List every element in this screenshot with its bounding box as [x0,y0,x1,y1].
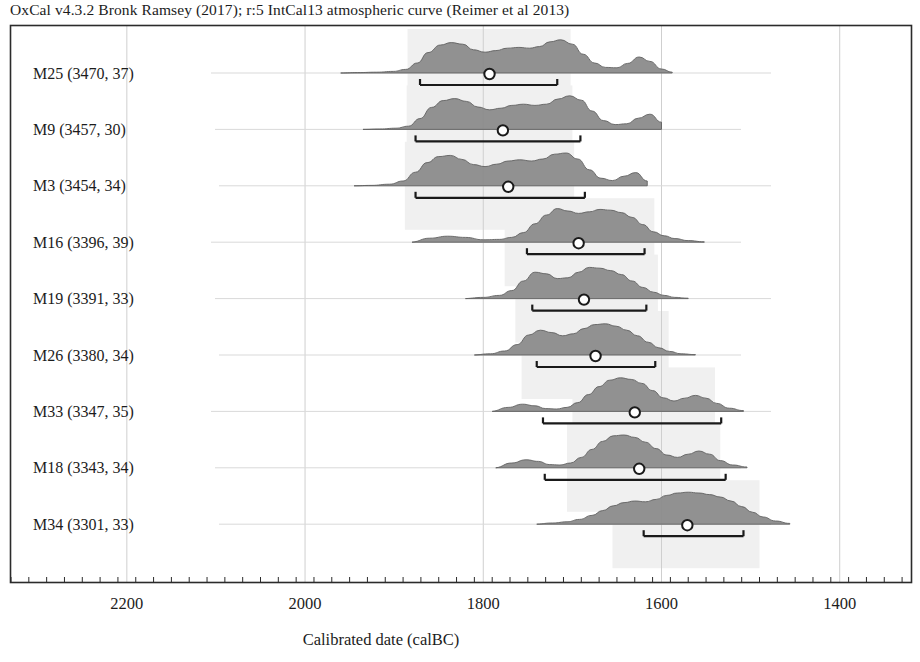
axis-tick-label: 1800 [467,594,500,613]
calibration-plot: M25 (3470, 37)M9 (3457, 30)M3 (3454, 34)… [0,0,920,662]
median-marker [590,351,600,361]
median-marker [498,125,508,135]
sample-label: M3 (3454, 34) [33,177,126,195]
median-marker [573,238,583,248]
sample-label: M19 (3391, 33) [33,290,134,308]
median-marker [630,407,640,417]
median-marker [484,69,494,79]
sample-label: M34 (3301, 33) [33,516,134,534]
axis-title: Calibrated date (calBC) [303,630,460,649]
axis-tick-label: 1400 [823,594,856,613]
axis-tick-label-group: 22002000180016001400 [110,594,856,613]
axis-tick-label: 1600 [645,594,678,613]
sample-label: M25 (3470, 37) [33,65,134,83]
median-marker [682,520,692,530]
median-marker [579,294,589,304]
sample-label: M16 (3396, 39) [33,234,134,252]
median-marker [634,464,644,474]
axis-tick-label: 2000 [289,594,322,613]
sample-label-group: M25 (3470, 37)M9 (3457, 30)M3 (3454, 34)… [33,65,134,534]
median-marker [503,182,513,192]
sample-label: M18 (3343, 34) [33,459,134,477]
sample-label: M33 (3347, 35) [33,403,134,421]
axis-tick-group [11,577,902,582]
axis-tick-label: 2200 [110,594,143,613]
sample-label: M26 (3380, 34) [33,347,134,365]
oxcal-plot-root: OxCal v4.3.2 Bronk Ramsey (2017); r:5 In… [0,0,920,662]
sample-label: M9 (3457, 30) [33,121,126,139]
